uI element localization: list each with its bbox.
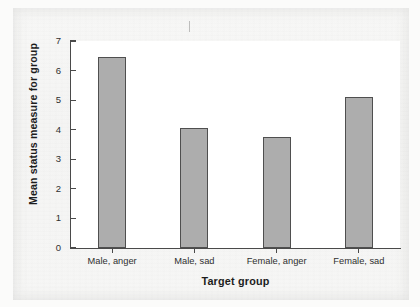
y-axis-tick — [71, 159, 76, 160]
y-axis-title: Mean status measure for group — [27, 29, 39, 219]
x-axis-tick — [194, 248, 195, 253]
y-axis-tick-label: 4 — [39, 125, 61, 135]
y-axis-tick-label: 1 — [39, 213, 61, 223]
x-axis-tick — [358, 248, 359, 253]
y-axis-tick-label: 0 — [39, 243, 61, 253]
y-axis-tick — [71, 70, 76, 71]
figure-container: 01234567 Male, angerMale, sadFemale, ang… — [0, 0, 420, 307]
bar — [345, 97, 373, 248]
y-axis-tick-label: 2 — [39, 184, 61, 194]
y-axis-tick — [71, 129, 76, 130]
x-axis-tick-label: Female, sad — [333, 256, 384, 266]
y-axis-tick-label: 5 — [39, 95, 61, 105]
bar — [263, 137, 291, 248]
bar-chart: 01234567 Male, angerMale, sadFemale, ang… — [0, 0, 420, 307]
y-axis-tick — [71, 247, 76, 248]
x-axis-tick-label: Male, anger — [88, 256, 137, 266]
x-axis-tick-label: Female, anger — [247, 256, 307, 266]
x-axis-title: Target group — [71, 275, 400, 287]
x-axis-tick — [112, 248, 113, 253]
x-axis-tick — [276, 248, 277, 253]
y-axis-tick — [71, 100, 76, 101]
y-axis-tick-label: 3 — [39, 154, 61, 164]
y-axis-tick — [71, 218, 76, 219]
y-axis-tick — [71, 188, 76, 189]
bar — [180, 128, 208, 248]
y-axis-tick — [71, 40, 76, 41]
bar — [98, 57, 126, 248]
y-axis-tick-label: 6 — [39, 66, 61, 76]
x-axis-tick-label: Male, sad — [174, 256, 214, 266]
y-axis-tick-label: 7 — [39, 36, 61, 46]
